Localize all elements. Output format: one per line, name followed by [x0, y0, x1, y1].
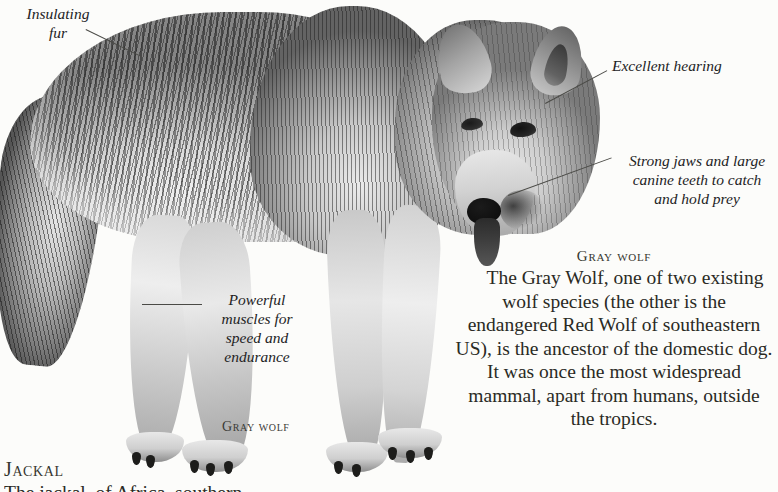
wolf-claw [352, 464, 361, 477]
entry-paragraph-jackal-partial: The jackal, of Africa, southern [4, 481, 434, 492]
wolf-claw [334, 461, 343, 474]
photo-caption-gray-wolf: Gray wolf [222, 419, 290, 435]
annotation-powerful-muscles: Powerful muscles for speed and endurance [206, 290, 308, 366]
wolf-claw [406, 450, 415, 463]
entry-paragraph-gray-wolf: The Gray Wolf, one of two existing wolf … [455, 266, 773, 431]
wolf-jaw-shadow [500, 190, 544, 230]
wolf-claw [424, 447, 433, 460]
entry-heading-gray-wolf: Gray wolf [455, 248, 773, 265]
wolf-claw [224, 461, 233, 474]
entry-heading-jackal: Jackal [4, 458, 64, 481]
entry-paragraph-text: The Gray Wolf, one of two existing wolf … [456, 267, 773, 429]
wolf-claw [146, 455, 155, 468]
annotation-excellent-hearing: Excellent hearing [612, 56, 772, 75]
wolf-claw [132, 452, 141, 465]
annotation-strong-jaws: Strong jaws and large canine teeth to ca… [616, 151, 778, 208]
book-page: Insulating fur Excellent hearing Strong … [0, 0, 778, 492]
wolf-claw [206, 463, 215, 476]
leader-line-powerful-muscles [142, 304, 202, 305]
annotation-insulating-fur: Insulating fur [10, 4, 106, 42]
gray-wolf-entry: Gray wolf The Gray Wolf, one of two exis… [455, 248, 773, 431]
wolf-claw [190, 460, 199, 473]
